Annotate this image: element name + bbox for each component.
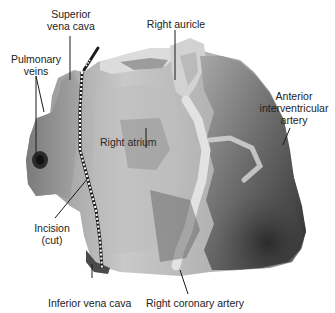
label-superior-vena-cava: Superior vena cava [46, 8, 96, 32]
pulmonary-vein-region [26, 72, 80, 200]
heart-specimen-photo [0, 0, 335, 313]
label-right-atrium: Right atrium [100, 136, 170, 148]
label-inferior-vena-cava: Inferior vena cava [48, 297, 138, 309]
label-incision: Incision (cut) [30, 222, 74, 246]
label-pulmonary-veins: Pulmonary veins [8, 53, 64, 77]
label-right-auricle: Right auricle [142, 18, 210, 30]
label-right-coronary-artery: Right coronary artery [146, 297, 256, 309]
anatomical-figure: Superior vena cava Right auricle Pulmona… [0, 0, 335, 313]
leader-pulmonary-vein-1 [36, 76, 44, 112]
label-anterior-interventricular-artery: Anterior interventricular artery [254, 90, 334, 126]
